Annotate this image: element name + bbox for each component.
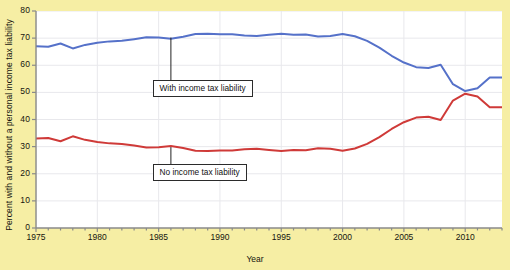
y-tick-label: 50 (8, 86, 30, 96)
x-tick-label: 1990 (200, 232, 240, 242)
y-tick-label: 70 (8, 32, 30, 42)
plot-svg (36, 11, 502, 228)
x-tick-label: 1975 (16, 232, 56, 242)
y-tick-label: 30 (8, 141, 30, 151)
y-tick-label: 80 (8, 5, 30, 15)
series-line-with-income-tax-liability (36, 34, 502, 91)
y-tick-label: 60 (8, 59, 30, 69)
y-tick-label: 10 (8, 195, 30, 205)
series-line-no-income-tax-liability (36, 94, 502, 151)
x-tick-label: 1985 (139, 232, 179, 242)
chart-figure: Percent with and without a personal inco… (0, 0, 510, 270)
x-tick-label: 1995 (261, 232, 301, 242)
plot-panel (36, 11, 502, 228)
y-tick-label: 40 (8, 114, 30, 124)
x-axis-title: Year (0, 254, 510, 264)
y-axis-title: Percent with and without a personal inco… (4, 10, 18, 240)
y-tick-label: 20 (8, 168, 30, 178)
annotation-no-income-tax-liability: No income tax liability (153, 164, 247, 181)
x-tick-label: 2010 (445, 232, 485, 242)
y-tick-label: 0 (8, 222, 30, 232)
x-tick-label: 2000 (323, 232, 363, 242)
annotation-with-income-tax-liability: With income tax liability (153, 80, 253, 97)
x-tick-label: 2005 (384, 232, 424, 242)
x-tick-label: 1980 (77, 232, 117, 242)
